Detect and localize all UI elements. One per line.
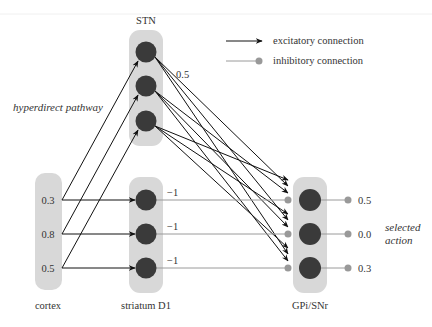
stn-node xyxy=(136,76,157,97)
striatum-weight: −1 xyxy=(167,221,178,232)
stn-node xyxy=(136,111,157,132)
gpi-label: GPi/SNr xyxy=(292,300,329,311)
gpi-node xyxy=(299,257,321,279)
basal-ganglia-diagram: 0.3 0.8 0.5 −1 −1 −1 0.5 0.5 0.0 0.3 STN… xyxy=(0,0,432,327)
stn-label: STN xyxy=(136,15,156,26)
striatum-label: striatum D1 xyxy=(121,300,171,311)
gpi-output-value: 0.5 xyxy=(358,195,371,206)
hyperdirect-label: hyperdirect pathway xyxy=(13,101,103,113)
stn-weight: 0.5 xyxy=(176,69,189,80)
gpi-output-value: 0.3 xyxy=(358,263,371,274)
cortex-value: 0.5 xyxy=(41,263,54,274)
inhibitory-legend-icon xyxy=(256,58,263,65)
legend: excitatory connection inhibitory connect… xyxy=(226,35,364,66)
cortex-value: 0.8 xyxy=(41,229,54,240)
cortex-to-stn-connections xyxy=(62,61,138,268)
excitatory-legend-label: excitatory connection xyxy=(273,35,364,46)
gpi-nodes xyxy=(299,189,321,279)
cortex-label: cortex xyxy=(35,300,62,311)
stn-node xyxy=(136,42,157,63)
gpi-output-value: 0.0 xyxy=(358,229,371,240)
striatum-nodes xyxy=(136,190,157,279)
cortex-value: 0.3 xyxy=(41,195,54,206)
striatum-node xyxy=(136,224,157,245)
striatum-weight: −1 xyxy=(167,187,178,198)
striatum-node xyxy=(136,258,157,279)
cortex-to-striatum-connections xyxy=(62,200,135,268)
gpi-node xyxy=(299,223,321,245)
gpi-node xyxy=(299,189,321,211)
striatum-node xyxy=(136,190,157,211)
stn-nodes xyxy=(136,42,157,132)
inhibitory-legend-label: inhibitory connection xyxy=(273,55,364,66)
striatum-weight: −1 xyxy=(167,255,178,266)
selected-action-label-2: action xyxy=(385,234,413,246)
selected-action-label: selected xyxy=(385,221,421,233)
